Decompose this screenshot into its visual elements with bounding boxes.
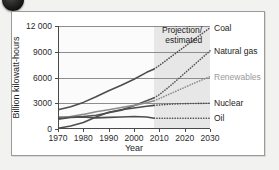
series-label-coal: Coal bbox=[214, 23, 231, 33]
y-axis bbox=[58, 26, 59, 129]
title-remnant bbox=[68, 0, 218, 1]
chart-frame: Billion kilowatt-hours Year 030006000900… bbox=[11, 11, 265, 156]
x-tick-mark bbox=[83, 129, 84, 132]
chart-screenshot: Billion kilowatt-hours Year 030006000900… bbox=[0, 0, 279, 170]
x-tick-label: 2000 bbox=[125, 133, 144, 143]
x-tick-mark bbox=[134, 129, 135, 132]
x-tick-label: 2020 bbox=[175, 133, 194, 143]
x-axis-label: Year bbox=[58, 143, 210, 153]
y-tick-mark bbox=[55, 52, 58, 53]
y-tick-label: 3000 bbox=[33, 98, 52, 108]
annotation-line-2: estimated bbox=[162, 36, 202, 46]
y-tick-mark bbox=[55, 78, 58, 79]
x-tick-label: 2010 bbox=[150, 133, 169, 143]
series-label-natural-gas: Natural gas bbox=[214, 46, 257, 56]
series-label-oil: Oil bbox=[214, 113, 224, 123]
x-tick-mark bbox=[159, 129, 160, 132]
series-projection-renewables bbox=[154, 77, 210, 101]
series-projection-natural-gas bbox=[154, 51, 210, 98]
series-line-oil bbox=[58, 117, 154, 120]
series-label-nuclear: Nuclear bbox=[214, 98, 243, 108]
y-tick-label: 12 000 bbox=[26, 21, 52, 31]
x-tick-label: 1980 bbox=[74, 133, 93, 143]
projection-annotation: Projection/ estimated bbox=[162, 26, 202, 45]
x-tick-mark bbox=[210, 129, 211, 132]
y-tick-mark bbox=[55, 103, 58, 104]
series-projection-nuclear bbox=[154, 103, 210, 105]
x-tick-mark bbox=[109, 129, 110, 132]
x-tick-label: 1990 bbox=[99, 133, 118, 143]
x-tick-mark bbox=[58, 129, 59, 132]
y-tick-mark bbox=[55, 26, 58, 27]
y-tick-label: 6000 bbox=[33, 73, 52, 83]
y-axis-label: Billion kilowatt-hours bbox=[11, 0, 23, 26]
x-tick-label: 2030 bbox=[201, 133, 220, 143]
x-tick-label: 1970 bbox=[49, 133, 68, 143]
x-tick-mark bbox=[185, 129, 186, 132]
series-label-renewables: Renewables bbox=[214, 72, 261, 82]
y-tick-label: 9000 bbox=[33, 47, 52, 57]
